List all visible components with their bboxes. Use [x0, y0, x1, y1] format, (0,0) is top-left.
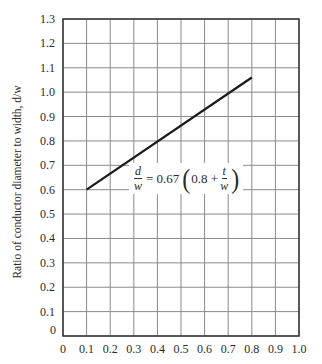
x-axis-tick-labels: 00.10.20.30.40.50.60.70.80.91.0 [60, 342, 307, 356]
fraction-t-over-w: t w [220, 165, 228, 192]
y-axis-label: Ratio of conductor diameter to width, d/… [11, 85, 24, 279]
x-tick-label: 1.0 [292, 342, 307, 356]
x-tick-label: 0 [60, 342, 66, 356]
formula-inner: 0.8 + [191, 172, 218, 185]
y-tick-label: 1.2 [40, 36, 55, 50]
y-tick-label: 1.3 [40, 12, 55, 26]
fraction-d-over-w: d w [134, 165, 142, 192]
x-tick-label: 0.1 [79, 342, 94, 356]
formula-annotation: d w = 0.67 ( 0.8 + t w ) [129, 163, 243, 194]
y-axis-tick-labels: 00.10.20.30.40.50.60.70.80.91.01.11.21.3 [40, 12, 56, 337]
y-tick-label: 0.5 [40, 207, 55, 221]
x-tick-label: 0.4 [150, 342, 165, 356]
y-tick-label: 0.4 [40, 231, 55, 245]
y-tick-label: 1.1 [40, 61, 55, 75]
fraction-denominator: w [134, 179, 142, 192]
x-tick-label: 0.9 [268, 342, 283, 356]
y-tick-label: 0.8 [40, 134, 55, 148]
y-tick-label: 0.1 [40, 305, 55, 319]
x-tick-label: 0.2 [103, 342, 118, 356]
open-paren: ( [182, 165, 190, 191]
y-tick-label: 0 [50, 323, 56, 337]
fraction-numerator: d [134, 165, 142, 179]
y-tick-label: 0.3 [40, 256, 55, 270]
x-tick-label: 0.7 [221, 342, 236, 356]
fraction-denominator: w [220, 179, 228, 192]
x-tick-label: 0.8 [244, 342, 259, 356]
x-tick-label: 0.3 [126, 342, 141, 356]
y-tick-label: 0.2 [40, 280, 55, 294]
y-tick-label: 0.7 [40, 158, 55, 172]
x-tick-label: 0.6 [197, 342, 212, 356]
formula-coefficient: = 0.67 [146, 172, 179, 185]
y-tick-label: 0.6 [40, 183, 55, 197]
fraction-numerator: t [222, 165, 227, 179]
x-tick-label: 0.5 [174, 342, 189, 356]
y-tick-label: 1.0 [40, 85, 55, 99]
y-tick-label: 0.9 [40, 110, 55, 124]
close-paren: ) [231, 165, 239, 191]
